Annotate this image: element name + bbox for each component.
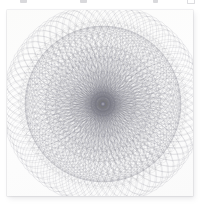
screenshot-viewport: Spirograph rosette xyxy=(0,0,206,206)
spirograph-artwork xyxy=(7,10,193,196)
spirograph-canvas xyxy=(7,10,193,196)
clipped-mark-1 xyxy=(20,0,27,3)
clipped-mark-3 xyxy=(153,0,158,3)
clipped-mark-2 xyxy=(80,0,87,3)
clipped-top-row xyxy=(0,0,206,5)
clipped-mark-4 xyxy=(187,0,195,4)
artwork-card[interactable] xyxy=(7,10,193,196)
artwork-card-surface xyxy=(7,10,193,196)
core-center-dot xyxy=(101,102,105,106)
